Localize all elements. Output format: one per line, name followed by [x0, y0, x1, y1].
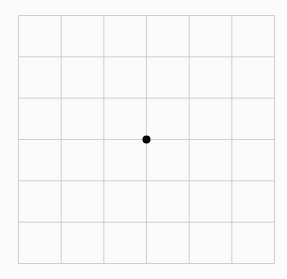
marker-dot[interactable]: [143, 136, 151, 144]
grid-board[interactable]: [0, 0, 287, 279]
